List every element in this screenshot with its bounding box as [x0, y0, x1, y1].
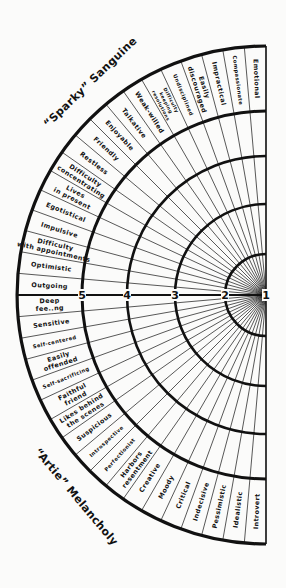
trait-label: Critical [174, 480, 192, 510]
svg-text:Pessimistic: Pessimistic [211, 484, 229, 530]
trait-label: Optimistic [30, 260, 72, 273]
trait-label: Introvert [252, 493, 262, 529]
scale-number: 5 [78, 289, 86, 302]
trait-label: Pessimistic [211, 484, 229, 530]
scale-number: 2 [221, 289, 229, 302]
svg-text:fee..ng: fee..ng [36, 304, 65, 313]
scale-number: 1 [262, 289, 270, 302]
trait-label: Idealistic [232, 491, 245, 529]
trait-label: Indecisive [191, 481, 211, 522]
svg-text:Emotional: Emotional [251, 59, 261, 99]
svg-text:Compassionate: Compassionate [231, 55, 244, 105]
spoke-line [161, 69, 266, 295]
svg-text:Critical: Critical [174, 480, 192, 510]
trait-label: Emotional [251, 59, 261, 99]
temperament-diagram: EmotionalCompassionateImpracticalEasilyd… [0, 0, 286, 588]
trait-label: Deepfee..ng [35, 296, 64, 313]
scale-number: 3 [171, 289, 179, 302]
trait-label: Impractical [210, 61, 228, 106]
spoke-line [161, 295, 266, 521]
melancholy-title: “Artie” Melancholy [32, 446, 121, 549]
svg-text:Introvert: Introvert [252, 493, 262, 529]
svg-text:Moody: Moody [157, 473, 176, 500]
svg-text:Optimistic: Optimistic [30, 260, 72, 273]
trait-label: Outgoing [31, 281, 68, 291]
trait-label: Difficultywith appointments [16, 233, 92, 264]
trait-label: Compassionate [231, 55, 244, 105]
svg-text:Indecisive: Indecisive [191, 481, 211, 522]
spoke-line [40, 295, 266, 400]
trait-label: Sensitive [33, 317, 71, 330]
svg-text:Sensitive: Sensitive [33, 317, 71, 330]
trait-label: Moody [157, 473, 176, 500]
svg-text:Idealistic: Idealistic [232, 491, 245, 529]
spoke-line [40, 190, 266, 295]
trait-label: Impulsive [40, 221, 79, 240]
svg-text:Impulsive: Impulsive [40, 221, 79, 240]
scale-number: 4 [123, 289, 131, 302]
svg-text:Impractical: Impractical [210, 61, 228, 106]
svg-text:Outgoing: Outgoing [31, 281, 68, 291]
trait-label: Easilyoffended [40, 348, 79, 374]
